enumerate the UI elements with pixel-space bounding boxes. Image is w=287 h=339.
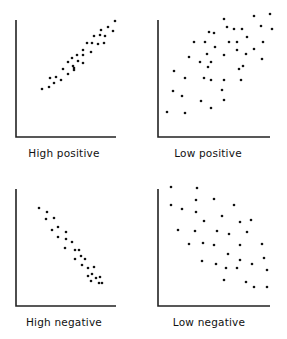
data-point: [184, 112, 187, 115]
data-point: [82, 62, 85, 65]
data-point: [223, 54, 226, 57]
data-point: [78, 249, 81, 252]
label-high-positive: High positive: [28, 147, 99, 159]
data-point: [207, 66, 210, 69]
data-point: [101, 282, 104, 285]
data-point: [93, 266, 96, 269]
data-point: [253, 48, 256, 51]
data-point: [242, 65, 245, 68]
data-point: [202, 242, 205, 245]
data-point: [166, 111, 169, 114]
data-point: [203, 77, 206, 80]
data-point: [73, 69, 76, 72]
data-point: [80, 255, 83, 258]
data-point: [87, 267, 90, 270]
data-point: [97, 43, 100, 46]
data-point: [86, 42, 89, 45]
data-point: [74, 258, 77, 261]
data-point: [49, 77, 52, 80]
data-point: [71, 241, 74, 244]
data-point: [196, 187, 199, 190]
data-point: [195, 199, 198, 202]
data-point: [74, 249, 77, 252]
data-point: [60, 79, 63, 82]
data-point: [261, 243, 264, 246]
data-point: [266, 269, 269, 272]
scatter-figure: High positive Low positive High negative…: [0, 0, 287, 339]
data-point: [210, 61, 213, 64]
data-point: [214, 46, 217, 49]
label-low-negative: Low negative: [173, 316, 245, 328]
data-point: [260, 25, 263, 28]
data-point: [233, 28, 236, 31]
data-point: [208, 31, 211, 34]
data-point: [223, 99, 226, 102]
data-point: [203, 220, 206, 223]
data-point: [236, 267, 239, 270]
data-point: [227, 253, 230, 256]
data-point: [173, 70, 176, 73]
data-point: [195, 211, 198, 214]
data-point: [112, 30, 115, 33]
data-point: [82, 54, 85, 57]
data-point: [57, 236, 60, 239]
data-point: [67, 73, 70, 76]
data-point: [99, 276, 102, 279]
data-point: [71, 57, 74, 60]
data-point: [245, 53, 248, 56]
data-point: [204, 41, 207, 44]
data-point: [170, 186, 173, 189]
data-point: [250, 219, 253, 222]
data-point: [170, 204, 173, 207]
data-point: [65, 231, 68, 234]
data-point: [184, 77, 187, 80]
data-point: [246, 231, 249, 234]
data-point: [91, 42, 94, 45]
data-point: [225, 267, 228, 270]
data-point: [114, 20, 117, 23]
data-point: [228, 233, 231, 236]
data-point: [213, 244, 216, 247]
data-point: [262, 41, 265, 44]
data-point: [216, 230, 219, 233]
data-point: [177, 229, 180, 232]
data-point: [199, 61, 202, 64]
data-point: [210, 107, 213, 110]
data-point: [99, 34, 102, 37]
data-point: [84, 258, 87, 261]
data-point: [239, 259, 242, 262]
data-point: [239, 221, 242, 224]
data-point: [253, 286, 256, 289]
data-point: [103, 42, 106, 45]
data-point: [253, 15, 256, 18]
plot-high-positive: [16, 20, 116, 137]
data-point: [201, 260, 204, 263]
data-point: [246, 36, 249, 39]
data-point: [269, 13, 272, 16]
label-high-negative: High negative: [26, 316, 102, 328]
axes: [158, 20, 270, 137]
data-point: [81, 264, 84, 267]
data-point: [46, 211, 49, 214]
data-point: [271, 28, 274, 31]
data-point: [93, 35, 96, 38]
data-point: [241, 28, 244, 31]
data-point: [194, 230, 197, 233]
data-point: [188, 243, 191, 246]
data-point: [64, 247, 67, 250]
data-point: [215, 263, 218, 266]
data-point: [193, 41, 196, 44]
data-point: [76, 54, 79, 57]
plot-low-positive: [158, 13, 273, 137]
data-point: [67, 61, 70, 64]
data-point: [172, 90, 175, 93]
data-point: [100, 29, 103, 32]
data-point: [238, 68, 241, 71]
data-point: [181, 95, 184, 98]
data-point: [48, 86, 51, 89]
data-point: [104, 35, 107, 38]
data-point: [90, 51, 93, 54]
data-point: [98, 282, 101, 285]
data-point: [57, 226, 60, 229]
data-point: [45, 218, 48, 221]
